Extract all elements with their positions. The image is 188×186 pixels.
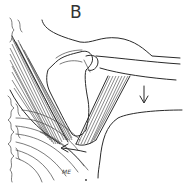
anatomical-figure: B ME: [0, 0, 188, 186]
coracoid: [60, 61, 82, 64]
shoulder-contour: [42, 20, 180, 58]
lateral-muscle-band: [76, 76, 130, 145]
dot-mark: [85, 179, 87, 181]
acromion: [56, 50, 82, 58]
axilla-contour: [98, 110, 182, 178]
down-arrow-icon: [140, 86, 148, 103]
panel-label: B: [70, 4, 82, 21]
shoulder-drawing: [0, 0, 188, 186]
arm-lower-edge: [100, 68, 176, 80]
medial-muscle-fibers: [10, 36, 72, 144]
annotation-label: ME: [62, 168, 71, 175]
